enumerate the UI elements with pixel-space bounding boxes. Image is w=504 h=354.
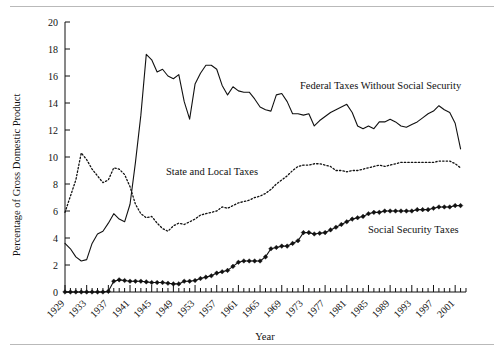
x-tick-label: 1937 — [88, 298, 110, 320]
series-marker — [160, 280, 165, 285]
y-tick-label: 12 — [48, 125, 58, 136]
series-marker — [155, 280, 160, 285]
series-marker — [90, 290, 95, 295]
y-tick-label: 6 — [53, 206, 58, 217]
series-marker — [220, 269, 225, 274]
series-marker — [193, 278, 198, 283]
series-marker — [382, 209, 387, 214]
y-tick-label: 20 — [48, 17, 58, 28]
series-marker — [144, 280, 149, 285]
series-marker — [95, 290, 100, 295]
series-marker — [404, 209, 409, 214]
series-marker — [149, 280, 154, 285]
series-annotation-label: Federal Taxes Without Social Security — [300, 80, 462, 91]
series-marker — [388, 209, 393, 214]
x-tick-label: 1993 — [391, 298, 413, 320]
series-marker — [350, 217, 355, 222]
x-tick-labels: 1929193319371941194519491953195719611965… — [44, 298, 456, 320]
series-marker — [437, 205, 442, 210]
series-marker — [106, 289, 111, 294]
x-tick-label: 1969 — [261, 298, 283, 320]
series-marker — [166, 281, 171, 286]
series-line — [65, 153, 461, 231]
series-marker — [111, 279, 116, 284]
series-marker — [393, 209, 398, 214]
series-marker — [410, 209, 415, 214]
x-tick-label: 1953 — [175, 298, 197, 320]
series-marker — [453, 203, 458, 208]
x-tick-label: 1933 — [66, 298, 88, 320]
x-tick-label: 1961 — [218, 298, 240, 320]
series-marker — [68, 290, 73, 295]
y-tick-label: 2 — [53, 260, 58, 271]
x-tick-label: 1965 — [240, 298, 262, 320]
x-tick-label: 1957 — [196, 298, 218, 320]
line-chart: 02468101214161820 1929193319371941194519… — [0, 0, 504, 354]
series-marker — [204, 275, 209, 280]
series-marker — [317, 231, 322, 236]
series-marker — [279, 244, 284, 249]
series-marker — [84, 290, 89, 295]
x-tick-label: 2001 — [435, 298, 457, 320]
series-marker — [274, 245, 279, 250]
x-tick-label: 1949 — [153, 298, 175, 320]
series-marker — [361, 214, 366, 219]
y-tick-label: 10 — [48, 152, 58, 163]
series-marker — [187, 279, 192, 284]
series-marker — [426, 207, 431, 212]
x-tick-label: 1989 — [370, 298, 392, 320]
y-tick-label: 14 — [48, 98, 58, 109]
x-tick-label: 1941 — [110, 298, 132, 320]
series-marker — [366, 211, 371, 216]
series-marker — [307, 230, 312, 235]
y-tick-label: 8 — [53, 179, 58, 190]
series-marker — [74, 290, 79, 295]
y-axis-title: Percentage of Gross Domestic Product — [11, 94, 22, 257]
series-marker — [431, 206, 436, 211]
x-axis-title: Year — [255, 331, 275, 342]
y-tick-labels: 02468101214161820 — [48, 17, 58, 298]
series-marker — [139, 279, 144, 284]
series-marker — [458, 203, 463, 208]
series-marker — [133, 279, 138, 284]
series-marker — [101, 290, 106, 295]
series-annotation-label: Social Security Taxes — [368, 224, 459, 235]
y-tick-label: 4 — [53, 233, 58, 244]
series-annotation-label: State and Local Taxes — [166, 166, 258, 177]
axes-group — [65, 22, 466, 292]
x-tick-label: 1929 — [44, 298, 66, 320]
series-marker — [420, 207, 425, 212]
x-tick-label: 1945 — [131, 298, 153, 320]
series-marker — [285, 244, 290, 249]
series-marker — [252, 259, 257, 264]
series-marker — [312, 232, 317, 237]
series-marker — [63, 290, 68, 295]
series-marker — [214, 271, 219, 276]
y-tick-label: 0 — [53, 287, 58, 298]
series-marker — [334, 225, 339, 230]
series-marker — [209, 274, 214, 279]
series-marker — [339, 222, 344, 227]
series-marker — [372, 210, 377, 215]
series-marker — [344, 220, 349, 225]
series-marker — [328, 228, 333, 233]
series-marker — [198, 276, 203, 281]
x-tick-label: 1981 — [326, 298, 348, 320]
figure-container: 02468101214161820 1929193319371941194519… — [0, 0, 504, 354]
bottom-rule — [10, 344, 494, 345]
x-tick-label: 1997 — [413, 298, 435, 320]
series-marker — [442, 205, 447, 210]
series-marker — [290, 241, 295, 246]
series-marker — [122, 278, 127, 283]
series-marker — [128, 279, 133, 284]
series-marker — [176, 282, 181, 287]
series-marker — [117, 278, 122, 283]
series-marker — [242, 259, 247, 264]
series-marker — [171, 282, 176, 287]
x-tick-label: 1985 — [348, 298, 370, 320]
series-marker — [323, 230, 328, 235]
top-rule — [10, 6, 494, 7]
series-marker — [447, 205, 452, 210]
series-marker — [182, 279, 187, 284]
series-marker — [355, 215, 360, 220]
